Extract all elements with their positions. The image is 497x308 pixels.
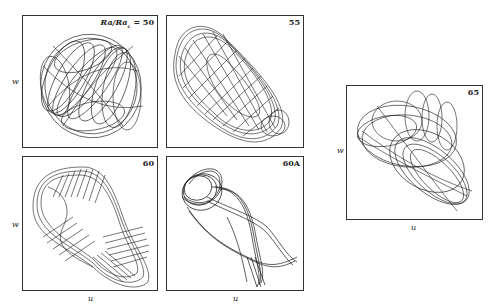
trajectory-plot-50 [23,16,159,149]
panel-label-55: 55 [289,17,300,27]
x-axis-label-u: u [411,223,416,232]
trajectory-plot-60A [167,157,305,292]
cropped-header-text [210,0,470,4]
y-axis-label-w: w [12,77,19,86]
x-axis-label-u: u [233,294,238,303]
trajectory-plot-60 [23,157,159,292]
panel-label-50: Ra/Rac = 50 [101,17,154,29]
y-axis-label-w: w [337,146,344,155]
phase-portrait-panel-50: Ra/Rac = 50 [22,15,158,148]
y-axis-label-w: w [12,220,19,229]
trajectory-plot-55 [167,16,305,149]
panel-label-65: 65 [468,87,479,97]
panel-label-60: 60 [143,158,154,168]
panel-label-60A: 60A [283,158,300,168]
phase-portrait-panel-60: 60 [22,156,158,291]
phase-portrait-panel-65: 65 [346,85,483,220]
trajectory-plot-65 [347,86,484,221]
phase-portrait-panel-55: 55 [166,15,304,148]
x-axis-label-u: u [88,294,93,303]
phase-portrait-panel-60A: 60A [166,156,304,291]
